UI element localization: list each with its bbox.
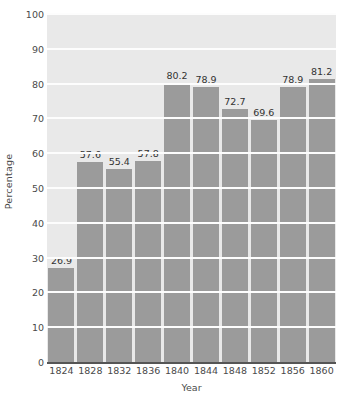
bar[interactable]: 57.8: [135, 161, 161, 362]
bar[interactable]: 78.9: [193, 87, 219, 362]
bar[interactable]: 57.6: [77, 162, 103, 362]
x-axis-tick-label: 1860: [307, 365, 336, 381]
bar[interactable]: 69.6: [251, 120, 277, 362]
x-axis-title: Year: [47, 382, 336, 393]
bars-layer: 26.957.655.457.880.278.972.769.678.981.2: [47, 14, 336, 362]
bar-value-label: 57.6: [80, 149, 101, 160]
bar-value-label: 55.4: [109, 156, 130, 167]
bar-value-label: 26.9: [51, 255, 72, 266]
bar-slot: 55.4: [105, 14, 134, 362]
bar-slot: 69.6: [249, 14, 278, 362]
bar-slot: 78.9: [278, 14, 307, 362]
y-axis-tick-label: 50: [14, 183, 44, 194]
y-axis-tick-labels: 0102030405060708090100: [14, 14, 44, 362]
bar-slot: 57.6: [76, 14, 105, 362]
x-axis-tick-label: 1828: [76, 365, 105, 381]
bar-value-label: 57.8: [138, 148, 159, 159]
x-axis-tick-label: 1856: [278, 365, 307, 381]
y-axis-tick-label: 10: [14, 322, 44, 333]
y-axis-tick-label: 30: [14, 252, 44, 263]
bar[interactable]: 72.7: [222, 109, 248, 362]
y-axis-tick-label: 90: [14, 43, 44, 54]
x-axis-tick-label: 1848: [220, 365, 249, 381]
y-axis-tick-label: 20: [14, 287, 44, 298]
bar-value-label: 81.2: [311, 66, 332, 77]
bar-slot: 57.8: [134, 14, 163, 362]
y-axis-tick-label: 0: [14, 357, 44, 368]
y-axis-tick-label: 70: [14, 113, 44, 124]
bar[interactable]: 80.2: [164, 83, 190, 362]
y-axis-tick-label: 80: [14, 78, 44, 89]
x-axis-tick-label: 1832: [105, 365, 134, 381]
x-axis-line: [47, 362, 336, 364]
bar-slot: 78.9: [192, 14, 221, 362]
y-axis-title-label: Percentage: [4, 153, 15, 208]
x-axis-tick-label: 1836: [134, 365, 163, 381]
y-axis-tick-label: 60: [14, 148, 44, 159]
bar-value-label: 78.9: [282, 74, 303, 85]
bar[interactable]: 55.4: [106, 169, 132, 362]
bar[interactable]: 78.9: [280, 87, 306, 362]
x-axis-tick-label: 1852: [249, 365, 278, 381]
bar[interactable]: 26.9: [48, 268, 74, 362]
bar-slot: 26.9: [47, 14, 76, 362]
x-axis-tick-label: 1844: [192, 365, 221, 381]
bar-value-label: 72.7: [224, 96, 245, 107]
x-axis-tick-label: 1824: [47, 365, 76, 381]
y-axis-tick-label: 100: [14, 9, 44, 20]
y-axis-tick-label: 40: [14, 217, 44, 228]
bar-slot: 81.2: [307, 14, 336, 362]
x-axis-tick-label: 1840: [163, 365, 192, 381]
bar-chart: Percentage 0102030405060708090100 26.957…: [0, 0, 347, 409]
bar-slot: 72.7: [220, 14, 249, 362]
bar-value-label: 78.9: [195, 74, 216, 85]
plot-area: 26.957.655.457.880.278.972.769.678.981.2: [47, 14, 336, 362]
bar-slot: 80.2: [163, 14, 192, 362]
x-axis-tick-labels: 1824182818321836184018441848185218561860: [47, 365, 336, 381]
bar-value-label: 80.2: [167, 70, 188, 81]
bar-value-label: 69.6: [253, 107, 274, 118]
bar[interactable]: 81.2: [309, 79, 335, 362]
